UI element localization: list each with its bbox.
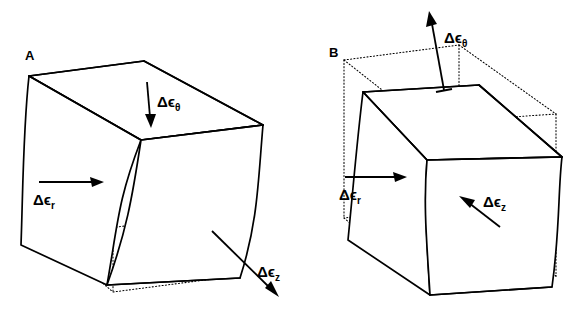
panel-a-circ-subscript: θ <box>175 102 180 113</box>
circ-arrow-b-head <box>426 11 437 27</box>
solid-face-b-front <box>425 157 562 295</box>
panel-b-axial-symbol: Δϵ <box>483 193 501 210</box>
panel-b-circumferential-label: Δϵθ <box>444 29 467 49</box>
panel-a-letter: A <box>25 48 35 63</box>
panel-a-axial-label: Δϵz <box>257 263 280 283</box>
panel-a: Δϵr Δϵθ Δϵz A <box>21 48 280 297</box>
strain-diagram-figure: Δϵr Δϵθ Δϵz A <box>0 0 584 318</box>
panel-b-circ-symbol: Δϵ <box>444 29 462 46</box>
panel-b-letter: B <box>329 45 338 60</box>
figure-canvas: Δϵr Δϵθ Δϵz A <box>0 0 584 318</box>
panel-a-axial-subscript: z <box>275 272 280 283</box>
panel-b-circ-subscript: θ <box>462 38 467 49</box>
panel-a-radial-symbol: Δϵ <box>33 191 51 208</box>
panel-b: Δϵr Δϵθ Δϵz B <box>329 11 562 295</box>
panel-a-axial-symbol: Δϵ <box>257 263 275 280</box>
panel-b-radial-subscript: r <box>357 195 361 206</box>
panel-a-deformed-element <box>21 61 263 285</box>
circ-arrow-b-shaft <box>432 24 444 90</box>
panel-b-deformed-element <box>348 85 562 295</box>
panel-b-axial-subscript: z <box>501 202 506 213</box>
axial-arrow-a-head <box>265 281 279 297</box>
ref-edge-b-top-left <box>344 45 459 60</box>
panel-b-radial-symbol: Δϵ <box>339 186 357 203</box>
panel-b-circumferential-arrow-group <box>426 11 452 92</box>
panel-a-radial-subscript: r <box>51 200 55 211</box>
panel-a-circ-symbol: Δϵ <box>157 93 175 110</box>
